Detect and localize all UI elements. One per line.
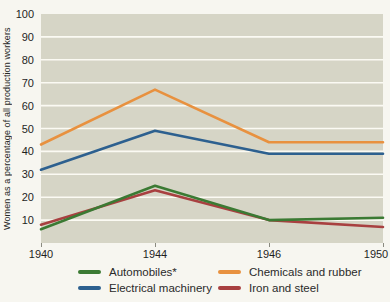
- plot-area: [41, 14, 383, 243]
- x-tick-mark: [155, 243, 156, 247]
- series-line-2: [41, 90, 383, 145]
- legend-column: Automobiles*Electrical machinery: [78, 264, 212, 296]
- legend-swatch-icon: [78, 270, 101, 274]
- y-tick-label: 70: [4, 77, 34, 89]
- y-tick-label: 50: [4, 123, 34, 135]
- legend-item: Automobiles*: [78, 264, 212, 280]
- legend-label: Iron and steel: [249, 282, 319, 294]
- legend-swatch-icon: [78, 286, 101, 290]
- x-tick-label: 1946: [257, 248, 281, 260]
- legend-item: Iron and steel: [218, 280, 362, 296]
- y-tick-label: 90: [4, 31, 34, 43]
- x-tick-label: 1940: [29, 248, 53, 260]
- y-tick-label: 10: [4, 214, 34, 226]
- legend-item: Chemicals and rubber: [218, 264, 362, 280]
- y-tick-label: 100: [4, 8, 34, 20]
- y-tick-label: 60: [4, 100, 34, 112]
- y-tick-label: 30: [4, 168, 34, 180]
- legend-column: Chemicals and rubberIron and steel: [218, 264, 362, 296]
- x-tick-label: 1950: [364, 248, 388, 260]
- legend-swatch-icon: [218, 286, 241, 290]
- y-tick-label: 40: [4, 145, 34, 157]
- x-tick-mark: [41, 243, 42, 247]
- x-tick-label: 1944: [143, 248, 167, 260]
- legend-label: Automobiles*: [109, 266, 177, 278]
- legend-swatch-icon: [218, 270, 241, 274]
- series-line-1: [41, 131, 383, 170]
- legend-label: Chemicals and rubber: [249, 266, 362, 278]
- y-tick-label: 20: [4, 191, 34, 203]
- x-tick-mark: [383, 243, 384, 247]
- x-tick-mark: [269, 243, 270, 247]
- y-tick-label: 80: [4, 54, 34, 66]
- legend-label: Electrical machinery: [109, 282, 212, 294]
- legend-item: Electrical machinery: [78, 280, 212, 296]
- line-chart: [41, 14, 383, 243]
- chart-panel: Women as a percentage of all production …: [0, 0, 390, 302]
- legend: Automobiles*Electrical machineryChemical…: [0, 264, 390, 300]
